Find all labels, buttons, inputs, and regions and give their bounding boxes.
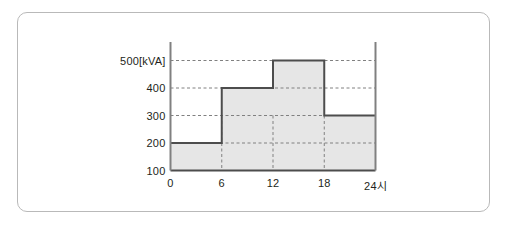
- y-axis-tick-label-200: 200: [147, 137, 166, 149]
- x-axis-tick-label-0: 0: [167, 177, 173, 189]
- step-load-chart: [0, 0, 507, 225]
- x-axis-tick-label-18: 18: [318, 177, 331, 189]
- chart-canvas: [0, 0, 507, 225]
- y-axis-tick-label-300: 300: [147, 110, 166, 122]
- y-axis-tick-label-100: 100: [147, 165, 166, 177]
- x-axis-tick-label-12: 12: [267, 177, 280, 189]
- y-axis-tick-label-500: 500[kVA]: [120, 55, 165, 67]
- x-axis-tick-label-24: 24시: [364, 177, 387, 193]
- x-axis-tick-label-6: 6: [219, 177, 225, 189]
- y-axis-tick-label-400: 400: [147, 82, 166, 94]
